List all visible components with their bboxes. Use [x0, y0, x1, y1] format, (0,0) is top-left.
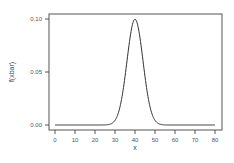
- x-tick-label: 40: [132, 137, 139, 143]
- x-tick-label: 70: [192, 137, 199, 143]
- y-tick-label: 0.10: [30, 16, 42, 22]
- y-tick-label: 0.00: [30, 122, 42, 128]
- density-curve: [55, 19, 215, 125]
- x-axis-title: x: [133, 144, 137, 151]
- x-tick-label: 50: [152, 137, 159, 143]
- x-tick-label: 10: [72, 137, 79, 143]
- x-tick-label: 30: [112, 137, 119, 143]
- y-axis: 0.000.050.10: [30, 16, 49, 128]
- y-axis-title: f(xbar): [8, 62, 16, 82]
- y-tick-label: 0.05: [30, 69, 42, 75]
- x-axis: 01020304050607080: [53, 130, 219, 143]
- x-tick-label: 80: [212, 137, 219, 143]
- plot-frame: [49, 14, 222, 130]
- x-tick-label: 20: [92, 137, 99, 143]
- x-tick-label: 60: [172, 137, 179, 143]
- x-tick-label: 0: [53, 137, 57, 143]
- density-chart: 0.000.050.10 01020304050607080 x f(xbar): [0, 0, 234, 163]
